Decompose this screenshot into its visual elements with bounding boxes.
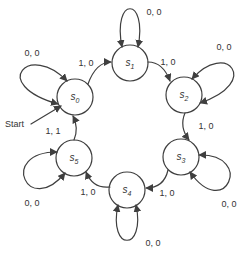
transition-label-s0-s1: 1, 0 [78,58,93,68]
transition-label-s1-s2: 1, 0 [160,57,175,67]
start-label: Start [5,119,25,129]
transition-label-s4-s5: 1, 0 [80,187,95,197]
state-diagram-svg: s0 s1 s2 s3 s4 s5 0, 0 0, 0 0, 0 0, 0 0,… [0,0,238,255]
self-loop-s1 [120,9,140,47]
self-loop-label-s2: 0, 0 [216,42,231,52]
transition-label-s2-s3: 1, 0 [198,121,213,131]
transition-s5-s0 [73,116,76,140]
self-loop-label-s5: 0, 0 [24,198,39,208]
transition-s2-s3 [183,113,189,140]
start-arrow [31,106,61,124]
transition-label-s5-s0: 1, 1 [45,126,60,136]
self-loop-label-s3: 0, 0 [221,199,236,209]
self-loop-label-s4: 0, 0 [145,238,160,248]
self-loop-label-s0: 0, 0 [24,48,39,58]
transition-s4-s5 [86,172,110,187]
transition-s3-s4 [146,170,168,188]
self-loop-s4 [116,205,137,240]
transition-label-s3-s4: 1, 0 [159,188,174,198]
state-diagram: s0 s1 s2 s3 s4 s5 0, 0 0, 0 0, 0 0, 0 0,… [0,0,238,255]
self-loop-label-s1: 0, 0 [146,7,161,17]
